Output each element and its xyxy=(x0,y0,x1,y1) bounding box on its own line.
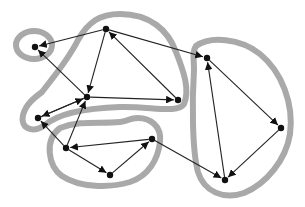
edge-k-to-i xyxy=(208,62,225,177)
node-f xyxy=(63,145,69,151)
edge-i-to-j xyxy=(209,60,278,125)
node-i xyxy=(204,55,210,61)
node-c xyxy=(84,94,90,100)
edge-f-to-g xyxy=(69,150,107,173)
node-e xyxy=(35,115,41,121)
node-k xyxy=(222,177,228,183)
edge-g-to-h xyxy=(112,142,148,173)
edge-b-to-c xyxy=(88,32,105,93)
component-outline-fgh xyxy=(50,118,161,186)
node-d xyxy=(175,97,181,103)
node-h xyxy=(149,136,155,142)
node-a xyxy=(32,44,38,50)
node-g xyxy=(107,172,113,178)
edge-b-to-i xyxy=(109,30,203,57)
node-b xyxy=(103,26,109,32)
strongly-connected-components-diagram xyxy=(0,0,305,207)
edge-d-to-b xyxy=(109,32,176,98)
edge-c-to-d xyxy=(90,97,174,100)
node-j xyxy=(278,125,284,131)
edge-h-to-f xyxy=(70,139,149,147)
edge-h-to-k xyxy=(155,141,222,178)
